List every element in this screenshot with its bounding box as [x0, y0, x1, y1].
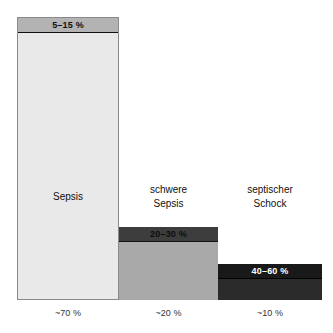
- axis-label-septischer-schock: ~10 %: [218, 308, 322, 318]
- bar-septischer-schock: 40–60 %: [218, 264, 322, 300]
- axis-label-sepsis-value: ~70 %: [55, 308, 81, 318]
- axis-label-schwere-sepsis: ~20 %: [119, 308, 218, 318]
- bar-septischer-schock-body: [218, 279, 322, 300]
- category-label-sepsis: Sepsis: [17, 190, 119, 204]
- category-label-septischer-schock-line-2: Schock: [218, 197, 322, 211]
- bar-schwere-sepsis-mortality-label: 20–30 %: [150, 229, 187, 239]
- category-label-schwere-sepsis-line-2: Sepsis: [119, 197, 218, 211]
- category-label-schwere-sepsis: schwere Sepsis: [119, 183, 218, 211]
- bar-septischer-schock-mortality-band: 40–60 %: [218, 264, 322, 279]
- category-label-schwere-sepsis-line-1: schwere: [119, 183, 218, 197]
- category-label-sepsis-line-1: Sepsis: [17, 190, 119, 204]
- category-label-septischer-schock-line-1: septischer: [218, 183, 322, 197]
- axis-label-septischer-schock-value: ~10 %: [257, 308, 283, 318]
- axis-label-schwere-sepsis-value: ~20 %: [156, 308, 182, 318]
- bar-schwere-sepsis-mortality-band: 20–30 %: [119, 227, 218, 242]
- bar-sepsis-mortality-label: 5–15 %: [52, 20, 84, 30]
- bar-sepsis-body: [18, 33, 118, 299]
- bar-septischer-schock-mortality-label: 40–60 %: [252, 266, 289, 276]
- bar-sepsis: 5–15 %: [17, 17, 119, 300]
- bar-sepsis-mortality-band: 5–15 %: [18, 18, 118, 33]
- axis-label-sepsis: ~70 %: [17, 308, 119, 318]
- category-label-septischer-schock: septischer Schock: [218, 183, 322, 211]
- sepsis-stage-chart: 5–15 % Sepsis ~70 % 20–30 % schwere Seps…: [0, 0, 333, 333]
- bar-schwere-sepsis-body: [119, 242, 218, 300]
- bar-schwere-sepsis: 20–30 %: [119, 227, 218, 300]
